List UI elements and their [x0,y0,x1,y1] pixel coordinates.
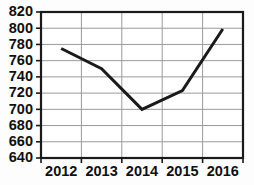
line-chart: 820800780760740720700680660640 201220132… [0,0,254,185]
y-axis-tick-label: 660 [9,133,33,149]
y-axis-tick-label: 820 [9,3,33,19]
y-axis-tick-label: 640 [9,149,33,165]
y-axis-tick-label: 720 [9,84,33,100]
x-axis-tick-labels: 20122013201420152016 [45,163,239,179]
y-axis-tick-label: 800 [9,20,33,36]
x-axis-tick-label: 2016 [207,163,239,179]
y-axis-tick-label: 680 [9,117,33,133]
y-axis-tick-label: 760 [9,52,33,68]
chart-canvas: 820800780760740720700680660640 201220132… [0,0,254,185]
y-axis-tick-label: 780 [9,36,33,52]
y-axis-tick-labels: 820800780760740720700680660640 [9,3,33,165]
y-axis-tick-label: 740 [9,68,33,84]
x-axis-tick-label: 2015 [166,163,198,179]
plot-background [41,12,243,158]
x-axis-tick-label: 2012 [45,163,77,179]
x-axis-tick-label: 2013 [85,163,117,179]
x-axis-tick-label: 2014 [126,163,158,179]
y-axis-tick-label: 700 [9,101,33,117]
